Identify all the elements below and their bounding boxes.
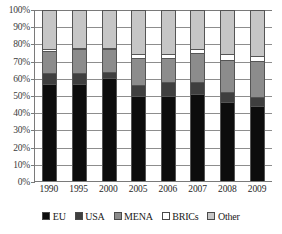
bar-segment-mena[interactable] — [42, 51, 57, 73]
bar-segment-other[interactable] — [72, 10, 87, 48]
legend-swatch-icon — [162, 212, 170, 220]
bar-segment-eu[interactable] — [102, 78, 117, 181]
y-axis-tick-label: 50% — [13, 91, 30, 101]
bar-segment-usa[interactable] — [220, 92, 235, 102]
plot-area — [34, 10, 272, 182]
bar-segment-other[interactable] — [161, 10, 176, 54]
bars-layer — [35, 10, 272, 181]
bar-column[interactable] — [72, 10, 87, 181]
bar-segment-usa[interactable] — [102, 72, 117, 79]
bar-column[interactable] — [42, 10, 57, 181]
bar-segment-eu[interactable] — [220, 102, 235, 181]
bar-segment-usa[interactable] — [131, 85, 146, 95]
x-axis-tick-label: 2007 — [184, 184, 212, 194]
bar-segment-usa[interactable] — [161, 82, 176, 96]
legend-item-other[interactable]: Other — [207, 211, 239, 222]
bar-segment-eu[interactable] — [190, 94, 205, 181]
y-axis-tickmark — [31, 182, 35, 183]
bar-column[interactable] — [250, 10, 265, 181]
bar-column[interactable] — [161, 10, 176, 181]
bar-column[interactable] — [131, 10, 146, 181]
bar-segment-usa[interactable] — [250, 97, 265, 106]
bar-segment-other[interactable] — [220, 10, 235, 54]
x-axis: 19901995200020052006200720082009 — [34, 184, 272, 200]
y-axis-tick-label: 60% — [13, 74, 30, 84]
bar-segment-eu[interactable] — [72, 84, 87, 181]
y-axis-tick-label: 30% — [13, 125, 30, 135]
bar-segment-usa[interactable] — [190, 82, 205, 94]
y-axis-tick-label: 90% — [13, 22, 30, 32]
bar-segment-mena[interactable] — [102, 49, 117, 71]
bar-segment-other[interactable] — [131, 10, 146, 54]
x-axis-tick-label: 2008 — [213, 184, 241, 194]
bar-segment-mena[interactable] — [250, 61, 265, 97]
x-axis-tick-label: 2009 — [243, 184, 271, 194]
bar-segment-mena[interactable] — [161, 58, 176, 82]
legend-swatch-icon — [114, 212, 122, 220]
y-axis-tick-label: 70% — [13, 57, 30, 67]
x-axis-tick-label: 1995 — [65, 184, 93, 194]
plot-wrapper: 100%90%80%70%60%50%40%30%20%10%0% 199019… — [0, 0, 282, 200]
legend-label: USA — [85, 211, 104, 222]
legend-item-usa[interactable]: USA — [75, 211, 105, 222]
bar-segment-usa[interactable] — [72, 73, 87, 83]
y-axis-tick-label: 100% — [9, 5, 30, 15]
bar-segment-other[interactable] — [102, 10, 117, 48]
y-axis-tick-label: 40% — [13, 108, 30, 118]
x-axis-tick-label: 1990 — [35, 184, 63, 194]
x-axis-tick-label: 2005 — [124, 184, 152, 194]
bar-segment-eu[interactable] — [161, 96, 176, 182]
legend-label: MENA — [124, 211, 153, 222]
bar-column[interactable] — [190, 10, 205, 181]
x-axis-tick-label: 2006 — [154, 184, 182, 194]
legend-item-mena[interactable]: MENA — [114, 211, 153, 222]
y-axis-tick-label: 0% — [18, 177, 30, 187]
bar-segment-usa[interactable] — [42, 73, 57, 83]
y-axis-tick-label: 80% — [13, 39, 30, 49]
stacked-bar-chart: 100%90%80%70%60%50%40%30%20%10%0% 199019… — [0, 0, 282, 234]
bar-segment-eu[interactable] — [250, 106, 265, 181]
y-axis-tick-label: 10% — [13, 160, 30, 170]
chart-legend: EUUSAMENABRICsOther — [0, 206, 282, 226]
legend-label: BRICs — [172, 211, 198, 222]
x-axis-tick-label: 2000 — [94, 184, 122, 194]
bar-segment-eu[interactable] — [42, 84, 57, 181]
bar-segment-other[interactable] — [42, 10, 57, 49]
bar-column[interactable] — [220, 10, 235, 181]
legend-swatch-icon — [75, 212, 83, 220]
y-axis: 100%90%80%70%60%50%40%30%20%10%0% — [0, 10, 32, 182]
legend-label: EU — [53, 211, 66, 222]
bar-segment-other[interactable] — [250, 10, 265, 56]
bar-segment-mena[interactable] — [131, 58, 146, 85]
legend-swatch-icon — [42, 212, 50, 220]
bar-segment-mena[interactable] — [220, 60, 235, 92]
y-axis-tick-label: 20% — [13, 143, 30, 153]
legend-label: Other — [218, 211, 240, 222]
legend-item-brics[interactable]: BRICs — [162, 211, 199, 222]
legend-swatch-icon — [207, 212, 215, 220]
bar-segment-other[interactable] — [190, 10, 205, 49]
bar-segment-mena[interactable] — [72, 49, 87, 73]
bar-column[interactable] — [102, 10, 117, 181]
bar-segment-eu[interactable] — [131, 96, 146, 182]
bar-segment-mena[interactable] — [190, 53, 205, 82]
legend-item-eu[interactable]: EU — [42, 211, 65, 222]
